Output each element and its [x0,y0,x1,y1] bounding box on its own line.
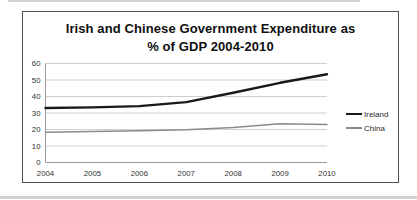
scan-artifact-bottom [0,196,417,199]
page: Irish and Chinese Government Expenditure… [0,0,417,200]
chart-frame: Irish and Chinese Government Expenditure… [22,11,399,183]
ireland-line-swatch [346,113,362,115]
legend-item-china: China [346,121,388,135]
legend-item-ireland: Ireland [346,107,388,121]
chart-title-line2: % of GDP 2004-2010 [23,38,398,56]
legend-label-china: China [364,124,385,133]
chart-title: Irish and Chinese Government Expenditure… [23,20,398,55]
china-line-swatch [346,127,362,129]
legend-label-ireland: Ireland [364,110,388,119]
chart-title-line1: Irish and Chinese Government Expenditure… [23,20,398,38]
scan-artifact-top [8,0,360,2]
legend: Ireland China [346,107,388,135]
